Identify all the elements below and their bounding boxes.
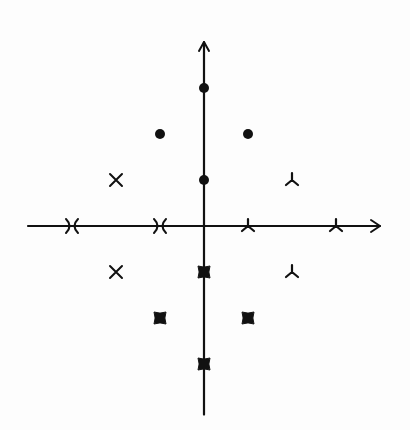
notched-square-icon [198, 358, 210, 370]
filled-circle-icon [243, 129, 253, 139]
notched-square-icon [154, 312, 166, 324]
tri-star-icon [286, 265, 298, 277]
x-cross-icon [110, 174, 122, 186]
diagram-svg [0, 0, 410, 430]
filled-circle-icon [155, 129, 165, 139]
filled-circle-icon [199, 175, 209, 185]
filled-circle-icon [199, 83, 209, 93]
notched-square-icon [198, 266, 210, 278]
notched-square-icon [242, 312, 254, 324]
tri-star-icon [286, 173, 298, 185]
coordinate-diagram [0, 0, 410, 430]
x-cross-icon [110, 266, 122, 278]
